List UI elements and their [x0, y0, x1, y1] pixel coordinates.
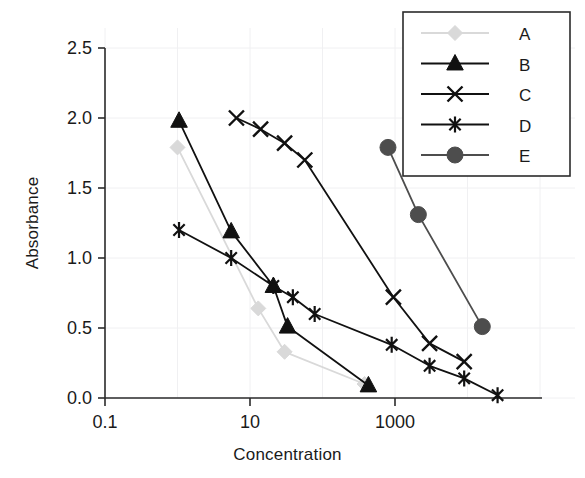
chart-canvas: 0.00.51.01.52.02.50.1101000 Concentratio…	[0, 0, 585, 478]
data-point-marker-x	[457, 354, 472, 369]
legend-entry-label: D	[519, 117, 531, 136]
series-A	[170, 140, 372, 392]
data-point-marker-triangle	[223, 222, 240, 237]
data-point-marker-diamond	[277, 344, 292, 359]
data-point-marker-diamond	[170, 140, 185, 155]
data-point-marker-x	[386, 290, 401, 305]
legend-entry-label: B	[519, 56, 530, 75]
data-point-marker-asterisk	[492, 387, 503, 403]
data-point-marker-x	[277, 136, 292, 151]
data-point-marker-asterisk	[287, 289, 298, 305]
x-axis-tick-label: 0.1	[92, 412, 117, 432]
data-point-marker-x	[253, 122, 268, 137]
data-point-marker-triangle	[171, 112, 188, 127]
data-point-marker-asterisk	[173, 222, 184, 238]
data-point-marker-circle	[474, 319, 490, 335]
y-axis-tick-label: 2.5	[67, 38, 92, 58]
y-axis-tick-label: 1.5	[67, 178, 92, 198]
x-axis-label: Concentration	[233, 445, 341, 464]
data-point-marker-x	[297, 153, 312, 168]
legend: ABCDE	[403, 12, 570, 176]
series-line-A	[178, 147, 365, 384]
data-point-marker-asterisk	[459, 370, 470, 386]
y-axis-label: Absorbance	[23, 177, 42, 270]
series-B	[171, 112, 377, 392]
data-point-marker-diamond	[251, 301, 266, 316]
y-axis-tick-label: 2.0	[67, 108, 92, 128]
legend-entry-label: C	[519, 86, 531, 105]
x-axis-tick-label: 1000	[375, 412, 415, 432]
data-point-marker-asterisk	[309, 306, 320, 322]
y-axis-tick-label: 0.0	[67, 388, 92, 408]
data-point-marker-circle	[410, 207, 426, 223]
data-point-marker-circle	[447, 147, 463, 163]
legend-entry-label: A	[519, 25, 531, 44]
series-line-B	[179, 121, 368, 386]
y-axis-tick-label: 0.5	[67, 318, 92, 338]
data-point-marker-circle	[380, 139, 396, 155]
x-axis-tick-label: 10	[240, 412, 260, 432]
data-point-marker-asterisk	[386, 337, 397, 353]
legend-entry-label: E	[519, 147, 530, 166]
axis-ticks-layer: 0.00.51.01.52.02.50.1101000	[67, 38, 415, 432]
data-point-marker-asterisk	[424, 358, 435, 374]
data-point-marker-triangle	[279, 318, 296, 333]
y-axis-tick-label: 1.0	[67, 248, 92, 268]
chart-figure: 0.00.51.01.52.02.50.1101000 Concentratio…	[0, 0, 585, 478]
series-D	[173, 222, 503, 403]
data-point-marker-x	[422, 336, 437, 351]
